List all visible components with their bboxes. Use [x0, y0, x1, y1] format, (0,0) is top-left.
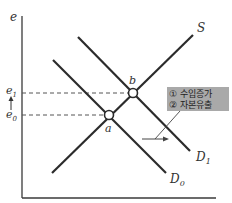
annotation-line-1: ① 수입증가	[169, 88, 212, 99]
equilibrium-a-marker	[105, 111, 114, 120]
y-axis-label: e	[10, 10, 17, 24]
e1-label: e1	[6, 84, 17, 99]
annotation-line-2: ② 자본유출	[169, 100, 212, 110]
point-b-label: b	[129, 74, 136, 87]
point-a-label: a	[105, 122, 112, 135]
supply-label: S	[197, 21, 205, 35]
equilibrium-b-marker	[129, 89, 138, 98]
shift-arrowhead-icon	[163, 137, 169, 142]
d0-label: D0	[169, 172, 185, 188]
exchange-rate-chart: e S D1 D0 b a e1 e0 ① 수입증가 ② 자본유출	[0, 0, 232, 203]
annotation-leader-line	[155, 111, 180, 139]
e0-label: e0	[6, 108, 18, 123]
d1-label: D1	[195, 150, 211, 166]
